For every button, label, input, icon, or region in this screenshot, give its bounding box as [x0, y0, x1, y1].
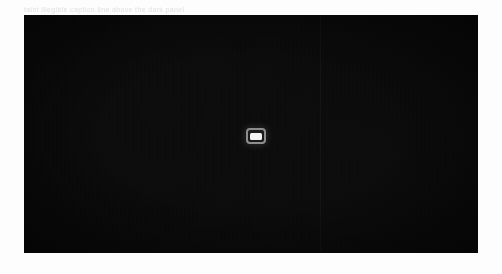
panel-label: dark media viewport: [24, 15, 25, 16]
media-placeholder-icon[interactable]: [246, 128, 266, 144]
header-caption: faint illegible caption line above the d…: [24, 4, 479, 15]
screen-root: faint illegible caption line above the d…: [0, 0, 502, 274]
media-placeholder-icon-fill: [250, 133, 262, 140]
media-viewport-panel[interactable]: dark media viewport: [24, 15, 478, 253]
panel-vertical-seam: [320, 15, 321, 253]
header-caption-text: faint illegible caption line above the d…: [24, 4, 479, 15]
